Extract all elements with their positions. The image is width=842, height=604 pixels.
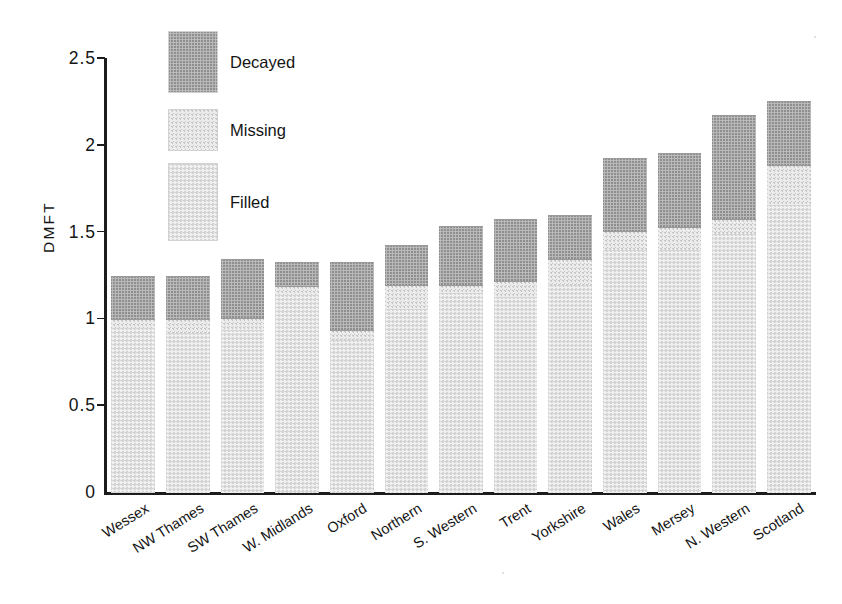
bar-segment-missing[interactable] <box>330 330 374 340</box>
y-tick-mark <box>97 57 105 59</box>
y-tick-mark <box>97 231 105 233</box>
bar-segment-decayed[interactable] <box>275 262 319 286</box>
bar-group[interactable] <box>548 41 592 493</box>
bar-segment-filled[interactable] <box>658 250 702 493</box>
bar-group[interactable] <box>658 41 702 493</box>
bar-group[interactable] <box>712 41 756 493</box>
bar-segment-missing[interactable] <box>603 231 647 250</box>
bar-segment-filled[interactable] <box>767 205 811 493</box>
bar-segment-filled[interactable] <box>385 309 429 493</box>
y-tick-label: 2 <box>44 134 96 155</box>
scan-speck <box>814 36 816 38</box>
bar-segment-decayed[interactable] <box>166 276 210 319</box>
legend-label: Decayed <box>230 53 295 72</box>
missing-swatch <box>168 109 218 151</box>
bar-segment-missing[interactable] <box>111 319 155 328</box>
bar-segment-missing[interactable] <box>658 227 702 250</box>
bar-group[interactable] <box>385 41 429 493</box>
bar-segment-filled[interactable] <box>111 328 155 493</box>
chart-legend: DecayedMissingFilled <box>168 31 378 221</box>
bar-segment-missing[interactable] <box>385 285 429 309</box>
x-axis-label: Scotland <box>750 500 806 543</box>
bar-segment-decayed[interactable] <box>111 276 155 319</box>
bar-segment-filled[interactable] <box>439 293 483 493</box>
x-axis-label: Oxford <box>324 500 369 537</box>
bar-segment-filled[interactable] <box>221 330 265 493</box>
bar-segment-missing[interactable] <box>494 281 538 297</box>
decayed-swatch <box>168 31 218 93</box>
bar-segment-decayed[interactable] <box>658 153 702 228</box>
bar-segment-decayed[interactable] <box>494 219 538 281</box>
bar-group[interactable] <box>439 41 483 493</box>
bar-segment-missing[interactable] <box>221 318 265 330</box>
bar-segment-decayed[interactable] <box>330 262 374 330</box>
bar-group[interactable] <box>111 41 155 493</box>
bar-group[interactable] <box>494 41 538 493</box>
y-axis-title: DMFT <box>40 172 58 282</box>
bar-segment-missing[interactable] <box>275 286 319 295</box>
bar-segment-filled[interactable] <box>166 333 210 493</box>
y-tick-mark <box>97 318 105 320</box>
bar-segment-decayed[interactable] <box>439 226 483 285</box>
legend-item[interactable]: Missing <box>168 109 378 151</box>
x-axis-label: Wales <box>601 500 643 535</box>
bar-segment-decayed[interactable] <box>221 259 265 318</box>
bar-segment-missing[interactable] <box>767 165 811 205</box>
y-tick-label: 0 <box>44 482 96 503</box>
legend-label: Filled <box>230 193 269 212</box>
bar-group[interactable] <box>603 41 647 493</box>
bar-segment-decayed[interactable] <box>767 101 811 165</box>
legend-label: Missing <box>230 121 286 140</box>
bar-segment-decayed[interactable] <box>548 215 592 258</box>
bar-segment-filled[interactable] <box>712 234 756 493</box>
bar-segment-filled[interactable] <box>603 250 647 493</box>
y-tick-label: 2.5 <box>44 48 96 69</box>
filled-swatch <box>168 163 218 241</box>
bar-segment-filled[interactable] <box>330 340 374 493</box>
bar-group[interactable] <box>767 41 811 493</box>
bar-segment-missing[interactable] <box>439 285 483 294</box>
x-axis-label: Yorkshire <box>529 500 588 545</box>
x-axis-label: Trent <box>497 500 534 531</box>
bar-segment-filled[interactable] <box>494 297 538 493</box>
bar-segment-filled[interactable] <box>548 285 592 493</box>
bar-segment-missing[interactable] <box>166 319 210 333</box>
scan-speck <box>502 572 504 574</box>
legend-item[interactable]: Filled <box>168 163 378 241</box>
legend-item[interactable]: Decayed <box>168 31 378 93</box>
bar-segment-decayed[interactable] <box>712 115 756 219</box>
bar-segment-missing[interactable] <box>548 259 592 285</box>
bar-segment-missing[interactable] <box>712 219 756 235</box>
bar-segment-decayed[interactable] <box>385 245 429 285</box>
bar-segment-decayed[interactable] <box>603 158 647 231</box>
stacked-bar-chart: 00.511.522.5 DMFT WessexNW ThamesSW Tham… <box>0 0 842 604</box>
y-tick-mark <box>97 144 105 146</box>
y-tick-label: 0.5 <box>44 395 96 416</box>
y-tick-label: 1 <box>44 308 96 329</box>
scan-speck <box>388 374 390 376</box>
bar-segment-filled[interactable] <box>275 295 319 493</box>
y-tick-mark <box>97 404 105 406</box>
